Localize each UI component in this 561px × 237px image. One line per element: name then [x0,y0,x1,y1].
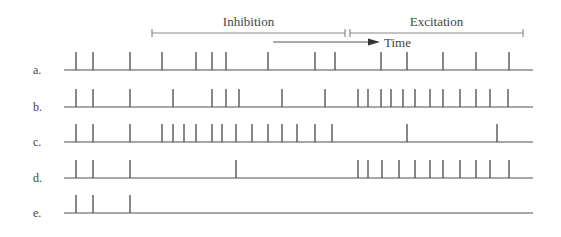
spike-rows: a.b.c.d.e. [33,52,533,220]
excitation-bracket [350,29,523,37]
spike-row-b: b. [33,89,533,114]
row-label: d. [33,171,42,185]
phase-header: Inhibition Excitation Time [152,14,523,50]
spike-train-diagram: Inhibition Excitation Time a.b.c.d.e. [0,0,561,237]
row-label: b. [33,100,42,114]
excitation-label: Excitation [410,14,464,29]
inhibition-label: Inhibition [223,14,275,29]
spike-row-a: a. [33,52,533,77]
row-label: a. [33,63,41,77]
time-arrow-icon [273,39,380,46]
time-label: Time [384,35,411,50]
spike-row-c: c. [33,124,533,149]
inhibition-bracket [152,29,345,37]
row-label: e. [33,206,41,220]
spike-row-e: e. [33,195,533,220]
spike-row-d: d. [33,160,533,185]
row-label: c. [33,135,41,149]
